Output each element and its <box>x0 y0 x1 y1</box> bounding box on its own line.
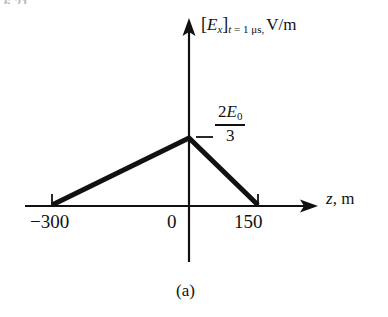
x-tick-label-150: 150 <box>234 212 263 231</box>
waveform-trace <box>52 138 258 205</box>
x-axis-variable: z <box>326 189 333 208</box>
x-axis-label: z, m <box>326 190 354 207</box>
fraction-denominator: 3 <box>215 127 245 144</box>
numerator-subscript: 0 <box>237 110 243 122</box>
numerator-symbol: E <box>227 102 237 121</box>
y-axis-label: [Ex]t = 1 μs,V/m <box>201 15 296 35</box>
y-axis-units: V/m <box>266 15 296 34</box>
y-axis-condition-unit: μs <box>251 23 261 35</box>
field-profile-plot <box>0 0 388 317</box>
peak-amplitude-annotation: 2E0 3 <box>215 103 245 144</box>
x-tick-label-zero: 0 <box>167 212 177 231</box>
y-axis-label-comma: , <box>262 23 265 35</box>
page-number-fragment: 6.21 <box>4 0 29 4</box>
y-axis-quantity: E <box>207 15 217 34</box>
y-axis-condition-value: = 1 <box>231 23 251 35</box>
x-tick-label-minus300: −300 <box>30 212 69 231</box>
numerator-coefficient: 2 <box>218 102 227 121</box>
fraction-numerator: 2E0 <box>215 103 245 122</box>
x-axis-units: , m <box>333 189 355 208</box>
figure-caption: (a) <box>176 282 195 299</box>
